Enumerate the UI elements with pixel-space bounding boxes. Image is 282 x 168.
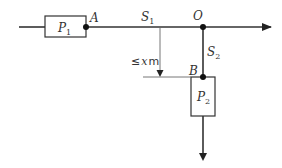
diagram-canvas: P1 A S1 O S2 B P2 ≤xm xyxy=(0,0,282,168)
node-b-dot xyxy=(200,74,206,80)
arrow-down-head xyxy=(199,153,207,161)
node-b-label: B xyxy=(188,64,198,78)
dimension-label: ≤xm xyxy=(131,55,159,68)
segment-s2-label: S2 xyxy=(207,45,220,61)
node-a-dot xyxy=(83,24,89,30)
dimension-arrow-head xyxy=(157,70,164,77)
segment-s1-label: S1 xyxy=(141,10,154,26)
node-o-label: O xyxy=(193,9,203,23)
node-a-label: A xyxy=(89,11,99,25)
node-o-dot xyxy=(200,24,206,30)
